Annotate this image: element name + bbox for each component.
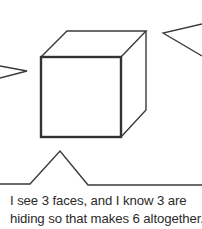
bottom-pointer bbox=[0, 151, 202, 185]
caption: I see 3 faces, and I know 3 are hiding s… bbox=[10, 192, 202, 228]
figure: I see 3 faces, and I know 3 are hiding s… bbox=[0, 0, 202, 229]
left-pointer bbox=[0, 66, 27, 78]
cube-right-face bbox=[121, 31, 146, 137]
caption-line-2: hiding so that makes 6 altogether. bbox=[10, 210, 202, 228]
cube-top-face bbox=[41, 31, 146, 57]
cube-front-face bbox=[41, 57, 121, 137]
caption-line-1: I see 3 faces, and I know 3 are bbox=[10, 192, 202, 210]
right-pointer bbox=[163, 24, 202, 56]
